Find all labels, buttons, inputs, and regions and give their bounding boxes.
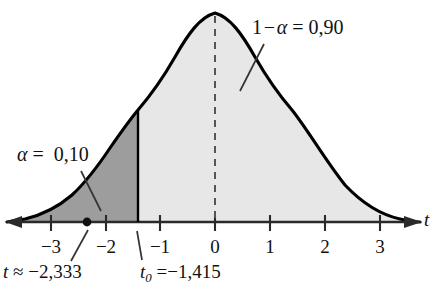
critical-value-relation: = xyxy=(156,261,167,282)
alpha-value: 0,10 xyxy=(54,143,89,165)
x-tick-label-0: 0 xyxy=(210,237,220,256)
test-statistic-relation: ≈ xyxy=(13,261,23,282)
test-statistic-dot xyxy=(83,218,92,227)
confidence-value: 0,90 xyxy=(308,16,343,38)
x-tick-label--3: −3 xyxy=(41,237,61,256)
critical-value-leader-line xyxy=(137,231,142,260)
test-statistic-label: t ≈ −2,333 xyxy=(3,262,82,281)
x-tick-label-2: 2 xyxy=(320,237,330,256)
non-rejection-area xyxy=(138,13,420,222)
x-tick-label-1: 1 xyxy=(265,237,275,256)
rejection-area xyxy=(7,110,138,222)
critical-value-number: −1,415 xyxy=(167,261,220,282)
x-tick-label-3: 3 xyxy=(375,237,385,256)
critical-value-label: t0 =−1,415 xyxy=(140,262,221,285)
confidence-minus: − xyxy=(264,16,275,38)
t-distribution-figure: 1 − α = 0,90 α = 0,10 t ≈ −2,333 t0 =−1,… xyxy=(0,0,435,293)
x-tick-label--1: −1 xyxy=(150,237,170,256)
x-axis-left-arrow xyxy=(5,216,22,228)
confidence-equals: = xyxy=(292,16,303,38)
alpha-equals: = xyxy=(33,143,44,165)
test-statistic-leader-line xyxy=(71,230,88,261)
confidence-level-label: 1 − α = 0,90 xyxy=(252,17,343,37)
confidence-one: 1 xyxy=(252,16,262,38)
alpha-symbol: α xyxy=(17,143,28,165)
x-tick-label--2: −2 xyxy=(96,237,116,256)
alpha-level-label: α = 0,10 xyxy=(17,144,89,164)
x-axis-right-arrow xyxy=(404,216,422,228)
test-statistic-value: −2,333 xyxy=(28,261,81,282)
confidence-alpha-symbol: α xyxy=(277,16,288,38)
x-axis-variable-label: t xyxy=(424,210,429,229)
